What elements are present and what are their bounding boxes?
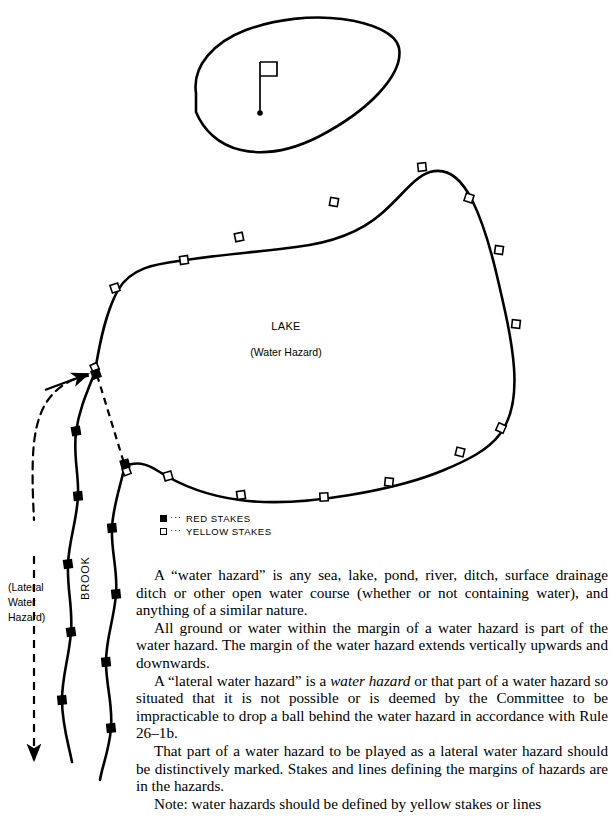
red-stake — [112, 590, 121, 599]
text-run: Note: water hazards should be defined by… — [154, 795, 541, 812]
yellow-stake — [234, 232, 243, 241]
text-run: That part of a water hazard to be played… — [136, 742, 608, 794]
text-run: All ground or water within the margin of… — [136, 619, 608, 671]
putting-green-outline — [196, 17, 400, 152]
p-water-hazard: A “water hazard” is any sea, lake, pond,… — [136, 566, 608, 619]
red-stake — [102, 658, 111, 667]
red-stake — [120, 459, 130, 469]
p-marking: That part of a water hazard to be played… — [136, 742, 608, 795]
lake-label: LAKE — [271, 320, 301, 334]
italic-run: water hazard — [330, 672, 410, 689]
lateral-water-hazard-label: (Lateral Water Hazard) — [8, 580, 45, 626]
p-note: Note: water hazards should be defined by… — [136, 795, 608, 813]
yellow-stake — [320, 493, 329, 502]
lateral-label-line-1: (Lateral — [8, 580, 45, 595]
red-stake — [63, 559, 72, 568]
yellow-stake-group — [90, 163, 520, 502]
lake-sublabel: (Water Hazard) — [250, 346, 321, 359]
legend-label-red-stakes: RED STAKES — [186, 513, 250, 524]
open-square-icon — [160, 528, 167, 535]
red-stake — [58, 696, 67, 705]
yellow-stake — [163, 471, 173, 481]
rules-page: LAKE (Water Hazard) (Lateral Water Hazar… — [0, 0, 612, 820]
brook-label: BROOK — [79, 556, 93, 600]
flagstick-icon — [257, 62, 277, 116]
text-run: A “water hazard” is any sea, lake, pond,… — [136, 566, 608, 618]
yellow-stake — [110, 283, 120, 293]
red-stake — [74, 492, 83, 501]
text-run: A “lateral water hazard” is a — [154, 672, 330, 689]
yellow-stake — [455, 447, 465, 457]
yellow-stake — [179, 255, 188, 264]
p-lateral-water-hazard: A “lateral water hazard” is a water haza… — [136, 672, 608, 742]
lateral-boundary-dashed-line — [97, 375, 124, 463]
red-stake — [66, 627, 75, 636]
red-stake — [91, 369, 101, 379]
brook-right-bank — [100, 465, 125, 780]
p-margin: All ground or water within the margin of… — [136, 619, 608, 672]
yellow-stake — [236, 490, 245, 499]
legend-dots-yellow: ··· — [170, 525, 182, 535]
yellow-stake — [512, 320, 521, 329]
yellow-stake — [385, 478, 394, 487]
lateral-label-line-3: Hazard) — [8, 610, 45, 625]
yellow-stake — [329, 197, 338, 206]
filled-square-icon — [160, 515, 167, 522]
lateral-relief-arrow-to-margin — [45, 374, 88, 390]
legend-dots-red: ··· — [170, 512, 182, 522]
yellow-stake — [418, 163, 427, 172]
lake-outline — [95, 171, 514, 502]
yellow-stake — [464, 193, 474, 203]
red-stake — [107, 724, 116, 733]
legend-row-red-stakes: ··· RED STAKES — [160, 512, 272, 525]
rules-body-text: A “water hazard” is any sea, lake, pond,… — [136, 566, 608, 812]
legend-row-yellow-stakes: ··· YELLOW STAKES — [160, 525, 272, 538]
hole-marker — [257, 110, 263, 116]
stake-legend: ··· RED STAKES ··· YELLOW STAKES — [160, 512, 272, 538]
yellow-stake — [494, 245, 503, 254]
legend-label-yellow-stakes: YELLOW STAKES — [186, 526, 272, 537]
lateral-label-line-2: Water — [8, 595, 45, 610]
red-stake — [71, 426, 80, 435]
red-stake — [108, 524, 117, 533]
